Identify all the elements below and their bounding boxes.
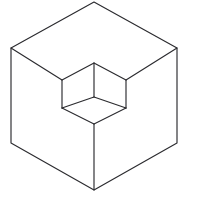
impossible-cube-drawing <box>0 0 217 198</box>
figure-canvas <box>0 0 217 198</box>
